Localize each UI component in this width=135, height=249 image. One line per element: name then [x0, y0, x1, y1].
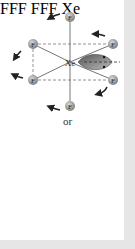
svg-text:F: F: [68, 14, 72, 22]
separator-or: or: [0, 115, 135, 127]
svg-text:F: F: [68, 103, 72, 111]
svg-text:F: F: [111, 77, 115, 85]
svg-text:F: F: [31, 41, 35, 49]
svg-text:F: F: [111, 41, 115, 49]
top-diagram: FFF FFF Xe: [14, 12, 120, 111]
svg-text:F: F: [31, 77, 35, 85]
svg-text:Xe: Xe: [65, 58, 76, 68]
